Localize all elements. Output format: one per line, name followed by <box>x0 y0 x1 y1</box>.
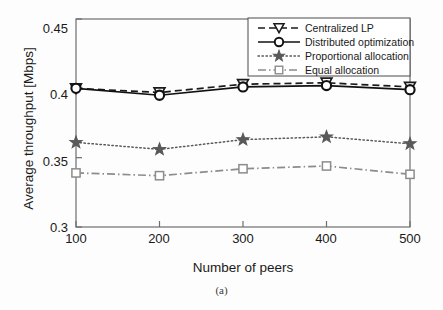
square-marker <box>72 169 80 177</box>
circle-marker <box>405 85 414 94</box>
figure-container: Average throughput [Mbps] Number of peer… <box>0 0 443 310</box>
star-marker <box>154 143 166 154</box>
x-tick-label-1: 200 <box>137 231 181 246</box>
y-tick-label-2: 0.4 <box>24 87 68 102</box>
star-marker <box>237 133 249 144</box>
y-tick-label-3: 0.45 <box>24 21 68 36</box>
series-3 <box>72 162 414 180</box>
data-series-layer <box>70 78 416 180</box>
legend-label-proportional-allocation: Proportional allocation <box>305 50 409 62</box>
circle-marker <box>322 81 331 90</box>
star-marker <box>321 131 333 142</box>
circle-marker <box>238 82 247 91</box>
circle-marker <box>155 91 164 100</box>
circle-marker <box>275 38 283 46</box>
legend-label-equal-allocation: Equal allocation <box>305 64 379 76</box>
square-marker <box>155 172 163 180</box>
series-2 <box>70 131 416 155</box>
x-tick-label-2: 300 <box>221 231 265 246</box>
x-tick-label-3: 400 <box>304 231 348 246</box>
y-tick-label-1: 0.35 <box>24 154 68 169</box>
square-marker <box>239 165 247 173</box>
x-tick-label-0: 100 <box>54 231 98 246</box>
square-marker <box>322 162 330 170</box>
x-axis-ticks <box>76 221 410 227</box>
legend-label-centralized-lp: Centralized LP <box>305 22 374 34</box>
y-axis-title: Average throughput [Mbps] <box>21 29 36 229</box>
y-axis-ticks <box>76 19 82 227</box>
square-marker <box>275 66 283 74</box>
legend-label-distributed-optimization: Distributed optimization <box>305 36 414 48</box>
x-tick-label-4: 500 <box>388 231 432 246</box>
figure-caption: (a) <box>0 284 443 296</box>
square-marker <box>406 170 414 178</box>
circle-marker <box>71 84 80 93</box>
x-axis-title: Number of peers <box>76 260 410 275</box>
